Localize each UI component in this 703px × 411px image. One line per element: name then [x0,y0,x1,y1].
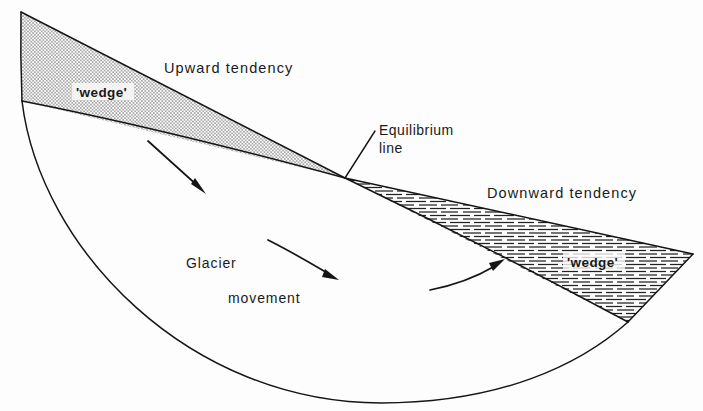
equilibrium-line-leader [345,131,375,178]
label-wedge-right-group: 'wedge' [563,253,625,270]
label-wedge-left: 'wedge' [76,85,127,100]
label-glacier: Glacier [186,255,237,271]
flow-arrow-upper-left-head [191,178,206,194]
flow-arrow-lower-right-shaft [430,266,495,290]
flow-arrow-middle-head [322,269,339,280]
label-upward-tendency: Upward tendency [164,60,293,76]
label-downward-tendency: Downward tendency [487,185,637,201]
glacier-wedge-diagram: Upward tendency Downward tendency Equili… [0,0,703,411]
diagram-canvas: Upward tendency Downward tendency Equili… [0,0,703,411]
label-equilibrium-line-2: line [379,140,403,156]
accumulation-wedge-region [21,12,345,178]
flow-arrow-middle [268,240,339,280]
label-movement: movement [228,290,301,306]
flow-arrow-upper-left [148,141,206,194]
label-wedge-right: 'wedge' [567,255,618,270]
flow-arrow-middle-shaft [268,240,329,274]
label-equilibrium-line-1: Equilibrium [379,122,454,138]
flow-arrow-upper-left-shaft [148,141,199,187]
flow-arrow-lower-right [430,259,505,290]
flow-arrow-lower-right-head [489,259,505,271]
label-wedge-left-group: 'wedge' [72,83,134,100]
